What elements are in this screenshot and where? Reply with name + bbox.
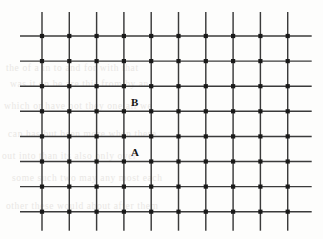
lattice-node	[286, 185, 290, 189]
lattice-node	[95, 159, 99, 163]
lattice-figure: the of a in to and for with that was it …	[0, 0, 323, 239]
lattice-node	[176, 185, 180, 189]
lattice-node	[204, 34, 208, 38]
lattice-node	[231, 185, 235, 189]
lattice-node	[95, 84, 99, 88]
lattice-node	[67, 84, 71, 88]
lattice-node	[149, 34, 153, 38]
lattice-node	[122, 84, 126, 88]
lattice-node	[122, 159, 126, 163]
lattice-node	[40, 210, 44, 214]
lattice-node	[286, 84, 290, 88]
lattice-node	[286, 59, 290, 63]
lattice-node	[231, 34, 235, 38]
lattice-node	[204, 134, 208, 138]
lattice-node	[258, 59, 262, 63]
lattice-node	[40, 109, 44, 113]
lattice-node	[258, 34, 262, 38]
lattice-node	[204, 59, 208, 63]
lattice-node	[149, 159, 153, 163]
lattice-node	[231, 59, 235, 63]
lattice-node	[149, 84, 153, 88]
lattice-node	[286, 159, 290, 163]
lattice-vertical-lines	[42, 12, 288, 231]
site-label-b: B	[131, 97, 139, 108]
lattice-node	[176, 34, 180, 38]
lattice-node	[95, 134, 99, 138]
lattice-node	[149, 210, 153, 214]
lattice-node	[176, 109, 180, 113]
lattice-node	[67, 34, 71, 38]
lattice-node	[40, 59, 44, 63]
lattice-node	[40, 134, 44, 138]
lattice-node	[40, 34, 44, 38]
lattice-node	[67, 159, 71, 163]
lattice-node	[204, 185, 208, 189]
lattice-node	[258, 109, 262, 113]
lattice-node	[176, 159, 180, 163]
lattice-node	[95, 210, 99, 214]
lattice-node	[95, 109, 99, 113]
lattice-node	[149, 134, 153, 138]
lattice-node	[67, 109, 71, 113]
lattice-node	[122, 210, 126, 214]
lattice-node	[149, 185, 153, 189]
lattice-node	[176, 59, 180, 63]
lattice-node	[40, 84, 44, 88]
lattice-node	[176, 84, 180, 88]
lattice-node	[286, 109, 290, 113]
lattice-node	[122, 134, 126, 138]
lattice-graphic	[0, 0, 323, 239]
lattice-node	[231, 84, 235, 88]
lattice-node	[122, 59, 126, 63]
lattice-node	[176, 210, 180, 214]
lattice-node	[231, 134, 235, 138]
site-label-a: A	[131, 147, 139, 158]
lattice-node	[258, 159, 262, 163]
lattice-node	[176, 134, 180, 138]
lattice-node	[231, 109, 235, 113]
lattice-node	[231, 159, 235, 163]
lattice-node	[258, 84, 262, 88]
lattice-node	[231, 210, 235, 214]
lattice-node	[95, 185, 99, 189]
lattice-node	[40, 185, 44, 189]
lattice-node	[95, 59, 99, 63]
lattice-node	[286, 134, 290, 138]
lattice-node	[204, 210, 208, 214]
lattice-node	[286, 34, 290, 38]
lattice-node	[67, 59, 71, 63]
lattice-node	[204, 84, 208, 88]
lattice-node	[95, 34, 99, 38]
lattice-node	[67, 210, 71, 214]
lattice-node	[286, 210, 290, 214]
lattice-node	[258, 185, 262, 189]
lattice-node	[204, 159, 208, 163]
lattice-node	[40, 159, 44, 163]
lattice-node	[258, 134, 262, 138]
lattice-node	[67, 134, 71, 138]
lattice-node	[149, 109, 153, 113]
lattice-node	[122, 185, 126, 189]
lattice-node	[204, 109, 208, 113]
lattice-node	[122, 109, 126, 113]
lattice-horizontal-lines	[20, 36, 312, 212]
lattice-node	[122, 34, 126, 38]
lattice-node	[67, 185, 71, 189]
lattice-node	[258, 210, 262, 214]
lattice-node	[149, 59, 153, 63]
